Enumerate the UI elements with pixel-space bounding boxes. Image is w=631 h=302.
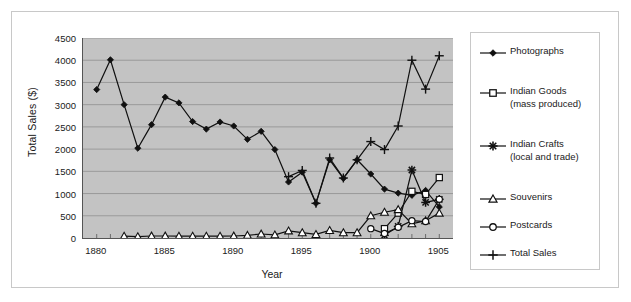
open-circle-marker bbox=[490, 224, 497, 231]
plus-marker bbox=[435, 51, 444, 60]
open-triangle-marker bbox=[189, 232, 197, 238]
legend-label: Postcards bbox=[507, 219, 552, 232]
asterisk-marker bbox=[421, 198, 430, 207]
x-tick-label: 1890 bbox=[211, 245, 255, 256]
plus-marker bbox=[394, 122, 403, 131]
open-square-marker bbox=[490, 90, 497, 97]
plus-marker bbox=[298, 166, 307, 175]
y-axis-tick-labels: 050010001500200025003000350040004500 bbox=[20, 38, 76, 238]
asterisk-marker bbox=[408, 166, 417, 175]
filled-diamond-marker bbox=[135, 145, 141, 151]
x-tick-label: 1895 bbox=[279, 245, 323, 256]
legend-label: Indian Goods (mass produced) bbox=[507, 85, 581, 110]
legend-item[interactable]: Indian Goods (mass produced) bbox=[479, 85, 601, 110]
legend-item[interactable]: Postcards bbox=[479, 219, 601, 234]
open-triangle-marker bbox=[120, 232, 128, 238]
open-triangle-marker bbox=[285, 227, 293, 234]
legend-label: Photographs bbox=[507, 45, 564, 58]
open-circle-marker bbox=[409, 218, 415, 224]
x-tick-label: 1880 bbox=[74, 245, 118, 256]
y-tick-label: 3500 bbox=[30, 77, 76, 88]
open-triangle-marker bbox=[216, 232, 224, 238]
legend-swatch-asterisk bbox=[479, 139, 507, 153]
legend-item[interactable]: Indian Crafts (local and trade) bbox=[479, 138, 601, 163]
x-tick-label: 1905 bbox=[416, 245, 460, 256]
filled-diamond-marker bbox=[490, 50, 497, 57]
y-tick-label: 1000 bbox=[30, 188, 76, 199]
plus-marker bbox=[421, 85, 430, 94]
filled-diamond-marker bbox=[94, 86, 100, 92]
chart-legend: PhotographsIndian Goods (mass produced)I… bbox=[470, 32, 600, 270]
open-triangle-marker bbox=[257, 230, 265, 237]
filled-diamond-marker bbox=[162, 94, 168, 100]
plot-svg bbox=[83, 38, 453, 238]
legend-swatch-open-triangle bbox=[479, 192, 507, 206]
legend-item[interactable]: Photographs bbox=[479, 45, 601, 60]
open-square-marker bbox=[436, 174, 442, 180]
legend-label: Indian Crafts (local and trade) bbox=[507, 138, 579, 163]
x-axis-title: Year bbox=[82, 268, 462, 280]
legend-item[interactable]: Souvenirs bbox=[479, 191, 601, 206]
x-tick-label: 1900 bbox=[348, 245, 392, 256]
y-tick-label: 2000 bbox=[30, 144, 76, 155]
x-axis-tick-labels: 188018851890189519001905 bbox=[82, 245, 452, 261]
plus-marker bbox=[407, 56, 416, 65]
filled-diamond-marker bbox=[217, 119, 223, 125]
x-tick-label: 1885 bbox=[142, 245, 186, 256]
legend-label: Total Sales bbox=[507, 247, 556, 260]
legend-label: Souvenirs bbox=[507, 191, 552, 204]
open-circle-marker bbox=[436, 196, 442, 202]
y-tick-label: 1500 bbox=[30, 166, 76, 177]
plus-marker bbox=[488, 250, 497, 259]
legend-swatch-plus bbox=[479, 248, 507, 262]
open-circle-marker bbox=[395, 224, 401, 230]
legend-swatch-open-circle bbox=[479, 220, 507, 234]
y-tick-label: 2500 bbox=[30, 121, 76, 132]
open-triangle-marker bbox=[161, 232, 169, 238]
series-line bbox=[124, 210, 439, 237]
series-line bbox=[97, 60, 440, 207]
plus-marker bbox=[325, 154, 334, 163]
y-tick-label: 4000 bbox=[30, 55, 76, 66]
open-triangle-marker bbox=[435, 209, 443, 216]
filled-diamond-marker bbox=[107, 57, 113, 63]
open-circle-marker bbox=[368, 226, 374, 232]
open-triangle-marker bbox=[202, 232, 210, 238]
asterisk-marker bbox=[488, 141, 497, 150]
legend-item[interactable]: Total Sales bbox=[479, 247, 601, 262]
legend-swatch-open-square bbox=[479, 86, 507, 100]
legend-swatch-filled-diamond bbox=[479, 46, 507, 60]
series-3 bbox=[120, 206, 443, 238]
plus-marker bbox=[380, 145, 389, 154]
chart-area: Total Sales ($) 050010001500200025003000… bbox=[12, 12, 462, 289]
plus-marker bbox=[366, 137, 375, 146]
plus-marker bbox=[311, 199, 320, 208]
series-0 bbox=[94, 57, 443, 210]
open-triangle-marker bbox=[175, 232, 183, 238]
series-layer bbox=[94, 51, 444, 238]
y-tick-label: 500 bbox=[30, 210, 76, 221]
open-circle-marker bbox=[381, 230, 387, 236]
open-triangle-marker bbox=[230, 232, 238, 238]
open-triangle-marker bbox=[326, 227, 334, 234]
figure-frame: Total Sales ($) 050010001500200025003000… bbox=[11, 11, 619, 288]
plot-area bbox=[82, 38, 453, 239]
open-circle-marker bbox=[422, 218, 428, 224]
filled-diamond-marker bbox=[395, 190, 401, 196]
y-tick-label: 0 bbox=[30, 233, 76, 244]
chart-screenshot: Total Sales ($) 050010001500200025003000… bbox=[0, 0, 631, 302]
open-square-marker bbox=[409, 188, 415, 194]
series-5 bbox=[284, 51, 444, 208]
y-tick-label: 3000 bbox=[30, 99, 76, 110]
open-triangle-marker bbox=[134, 233, 142, 238]
filled-diamond-marker bbox=[121, 102, 127, 108]
y-tick-label: 4500 bbox=[30, 33, 76, 44]
open-triangle-marker bbox=[148, 232, 156, 238]
